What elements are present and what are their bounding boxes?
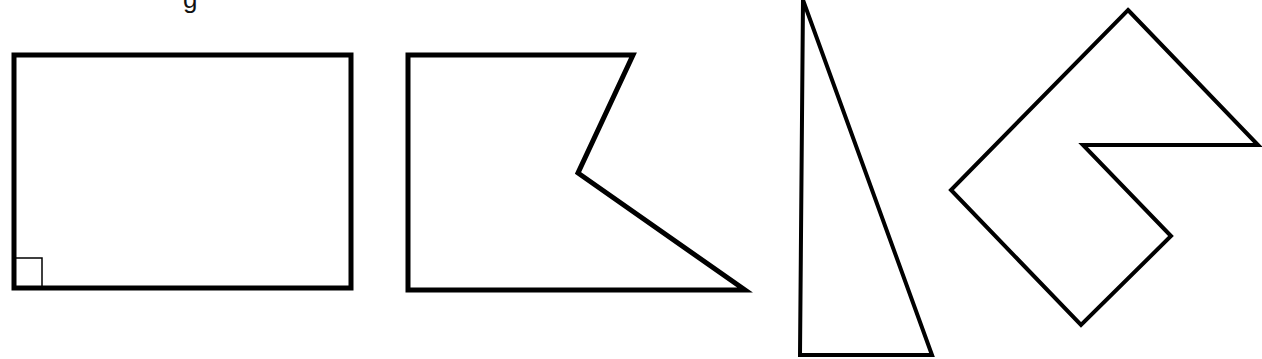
hexagon-shape [951,10,1258,325]
right-triangle-shape [800,0,932,355]
pentagon-shape [408,55,745,290]
right-angle-marker [14,258,42,288]
shapes-diagram [0,0,1262,359]
rectangle-shape [14,55,351,288]
